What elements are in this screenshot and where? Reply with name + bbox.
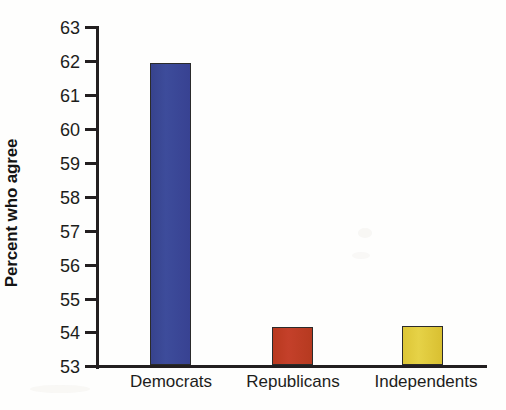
- y-tick-label-58: 58: [46, 189, 80, 207]
- x-tick-label-democrats: Democrats: [110, 373, 232, 392]
- y-tick-mark-53: [85, 365, 96, 368]
- y-axis-title: Percent who agree: [0, 0, 44, 410]
- y-tick-label-63: 63: [46, 19, 80, 37]
- bar-democrats: [150, 63, 191, 365]
- y-tick-label-57: 57: [46, 223, 80, 241]
- x-tick-label-independents: Independents: [358, 373, 494, 392]
- y-tick-mark-61: [85, 94, 96, 97]
- y-tick-label-53: 53: [46, 358, 80, 376]
- y-axis-title-text: Percent who agree: [2, 139, 22, 288]
- scan-artifact: [358, 228, 372, 238]
- y-tick-mark-54: [85, 331, 96, 334]
- x-axis-spine: [96, 365, 487, 368]
- y-tick-mark-59: [85, 162, 96, 165]
- y-axis-spine: [96, 26, 99, 369]
- y-tick-label-56: 56: [46, 257, 80, 275]
- y-tick-label-62: 62: [46, 53, 80, 71]
- y-tick-mark-62: [85, 60, 96, 63]
- y-tick-label-59: 59: [46, 155, 80, 173]
- y-tick-label-60: 60: [46, 121, 80, 139]
- y-tick-mark-63: [85, 26, 96, 29]
- y-tick-label-55: 55: [46, 291, 80, 309]
- y-tick-label-54: 54: [46, 324, 80, 342]
- y-tick-label-61: 61: [46, 87, 80, 105]
- bar-independents: [402, 326, 443, 365]
- bar-republicans: [272, 327, 313, 365]
- y-tick-mark-57: [85, 230, 96, 233]
- y-axis-tick-labels: 63 62 61 60 59 58 57 56 55 54 53: [42, 0, 80, 410]
- scan-artifact: [352, 252, 370, 259]
- bar-chart-figure: Percent who agree 63 62 61 60 59 58 57 5…: [0, 0, 506, 410]
- y-tick-mark-58: [85, 196, 96, 199]
- x-tick-label-republicans: Republicans: [230, 373, 356, 392]
- y-tick-mark-55: [85, 298, 96, 301]
- y-tick-mark-60: [85, 128, 96, 131]
- y-tick-mark-56: [85, 264, 96, 267]
